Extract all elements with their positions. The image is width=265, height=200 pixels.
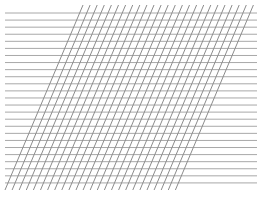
line-grating-figure xyxy=(0,0,265,200)
grating-svg xyxy=(0,0,265,200)
horizontal-lines-group xyxy=(5,13,257,183)
